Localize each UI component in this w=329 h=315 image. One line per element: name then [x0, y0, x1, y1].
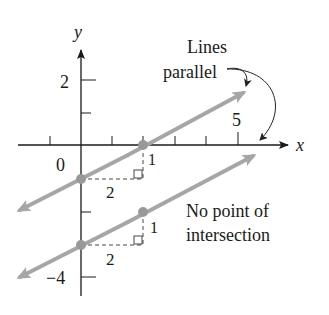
annotation-intersection: intersection — [186, 225, 270, 245]
x-axis-label: x — [295, 135, 304, 155]
point-upper-intercept — [76, 174, 86, 184]
callout-parallel: parallel — [163, 62, 217, 82]
tick-label-y-2: 2 — [60, 72, 69, 92]
parallel-lines-diagram: y x 2 −4 0 1 5 2 2 1 Lines parallel No p… — [0, 0, 329, 315]
point-lower-2 — [138, 207, 148, 217]
rise-label-lower: 1 — [150, 219, 158, 236]
tick-label-x-5: 5 — [232, 110, 241, 130]
tick-label-x-0: 0 — [56, 155, 65, 175]
y-axis-label: y — [72, 22, 82, 42]
tick-label-x-1: 1 — [148, 151, 156, 168]
point-upper-x-intercept — [138, 140, 148, 150]
callout-lines: Lines — [187, 37, 227, 57]
tick-label-y-neg4: −4 — [46, 268, 65, 288]
run-label-lower: 2 — [106, 250, 115, 269]
run-label-upper: 2 — [106, 183, 115, 202]
point-lower-intercept — [76, 240, 86, 250]
annotation-no-point: No point of — [186, 201, 269, 221]
